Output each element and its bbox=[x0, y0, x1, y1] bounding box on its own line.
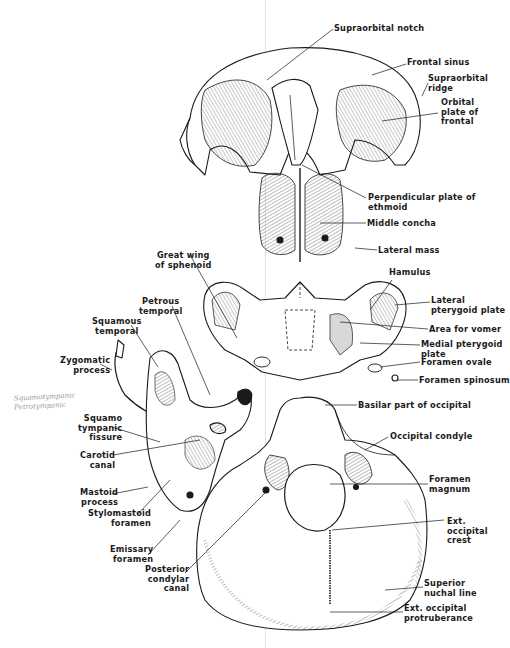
label-superior-nuchal-line: Superior nuchal line bbox=[424, 579, 477, 598]
label-lateral-pterygoid-plate: Lateral pterygoid plate bbox=[431, 296, 505, 315]
label-perpendicular-plate: Perpendicular plate of ethmoid bbox=[368, 193, 476, 212]
label-hamulus: Hamulus bbox=[389, 268, 431, 278]
label-squamotympanic-fissure: Squamo tympanic fissure bbox=[78, 414, 122, 443]
label-petrous-temporal: Petrous temporal bbox=[139, 297, 182, 316]
label-area-for-vomer: Area for vomer bbox=[429, 325, 501, 335]
label-squamous-temporal: Squamous temporal bbox=[92, 317, 142, 336]
sphenoid-bone bbox=[204, 282, 406, 381]
ethmoid-bone bbox=[259, 168, 343, 262]
label-foramen-magnum: Foramen magnum bbox=[429, 475, 471, 494]
label-foramen-ovale: Foramen ovale bbox=[421, 358, 492, 368]
label-supraorbital-ridge: Supraorbital ridge bbox=[428, 74, 488, 93]
label-lateral-mass: Lateral mass bbox=[378, 246, 440, 256]
label-basilar-part-occipital: Basilar part of occipital bbox=[358, 401, 471, 411]
label-occipital-condyle: Occipital condyle bbox=[390, 432, 473, 442]
label-carotid-canal: Carotid canal bbox=[80, 451, 115, 470]
label-zygomatic-process: Zygomatic process bbox=[60, 356, 110, 375]
label-orbital-plate: Orbital plate of frontal bbox=[441, 98, 478, 127]
label-ext-occipital-crest: Ext. occipital crest bbox=[447, 517, 488, 546]
label-foramen-spinosum: Foramen spinosum bbox=[419, 376, 510, 386]
label-frontal-sinus: Frontal sinus bbox=[407, 58, 469, 68]
frontal-bone bbox=[180, 48, 420, 175]
label-posterior-condylar-canal: Posterior condylar canal bbox=[145, 565, 189, 594]
handwritten-pencil-note: Squamotympanic Petrotympanic bbox=[14, 391, 76, 412]
label-ext-occipital-protuberance: Ext. occipital protruberance bbox=[404, 604, 473, 623]
label-mastoid-process: Mastoid process bbox=[80, 488, 118, 507]
label-stylomastoid-foramen: Stylomastoid foramen bbox=[88, 509, 151, 528]
label-great-wing-sphenoid: Great wing of sphenoid bbox=[155, 251, 211, 270]
label-supraorbital-notch: Supraorbital notch bbox=[334, 24, 424, 34]
label-middle-concha: Middle concha bbox=[367, 219, 436, 229]
label-emissary-foramen: Emissary foramen bbox=[110, 545, 153, 564]
